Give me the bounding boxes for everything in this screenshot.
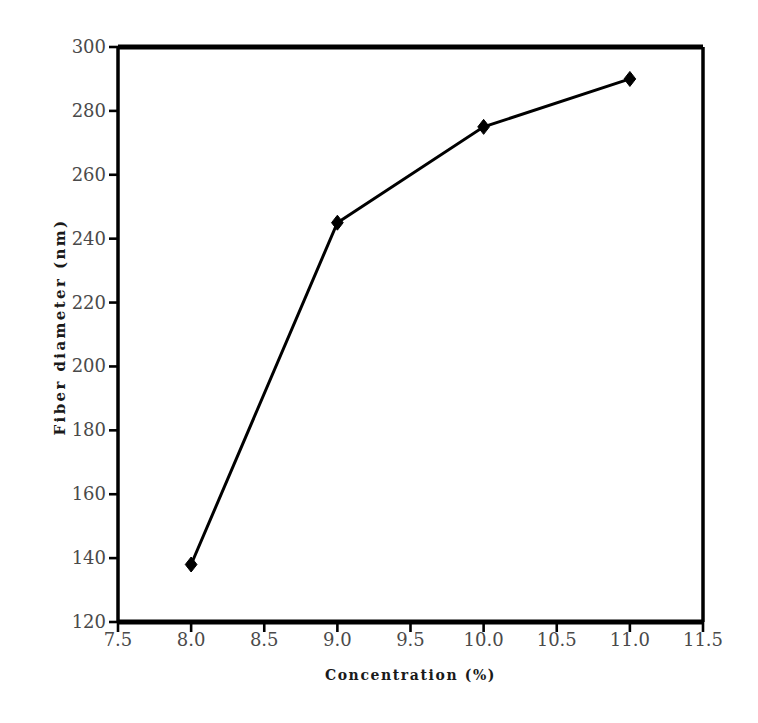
data-point-marker xyxy=(332,215,344,230)
plot-area xyxy=(0,0,758,723)
y-tick-label: 200 xyxy=(62,357,106,375)
y-tick-label: 140 xyxy=(62,549,106,567)
x-tick-label: 11.0 xyxy=(600,631,660,649)
data-series xyxy=(185,71,635,572)
data-point-marker xyxy=(478,119,490,134)
axis-ticks xyxy=(109,47,703,632)
y-tick-label: 160 xyxy=(62,485,106,503)
y-tick-label: 240 xyxy=(62,230,106,248)
chart-figure: Fiber diameter (nm) Concentration (%) 12… xyxy=(0,0,758,723)
x-tick-label: 8.5 xyxy=(234,631,294,649)
x-tick-label: 11.5 xyxy=(673,631,733,649)
y-tick-label: 120 xyxy=(62,613,106,631)
series-line xyxy=(191,79,630,565)
x-tick-label: 9.0 xyxy=(307,631,367,649)
x-axis-tick-labels: 7.58.08.59.09.510.010.511.011.5 xyxy=(0,631,758,671)
y-tick-label: 260 xyxy=(62,166,106,184)
y-tick-label: 220 xyxy=(62,294,106,312)
x-tick-label: 10.0 xyxy=(454,631,514,649)
data-point-marker xyxy=(624,71,636,86)
axes-frame xyxy=(118,47,703,622)
x-tick-label: 10.5 xyxy=(527,631,587,649)
data-point-marker xyxy=(185,557,197,572)
y-axis-tick-labels: 120140160180200220240260280300 xyxy=(22,0,106,723)
x-tick-label: 8.0 xyxy=(161,631,221,649)
y-tick-label: 180 xyxy=(62,421,106,439)
y-tick-label: 300 xyxy=(62,38,106,56)
x-tick-label: 7.5 xyxy=(88,631,148,649)
x-tick-label: 9.5 xyxy=(381,631,441,649)
y-tick-label: 280 xyxy=(62,102,106,120)
